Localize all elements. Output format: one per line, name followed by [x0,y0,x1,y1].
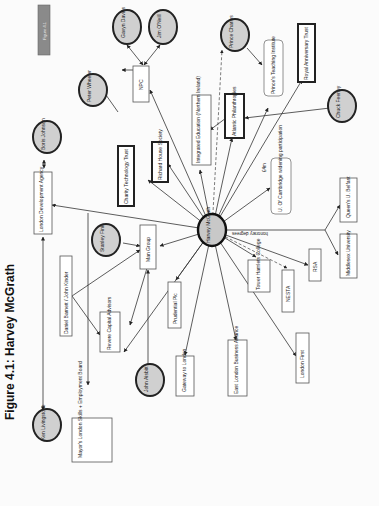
svg-text:Man Group: Man Group [145,237,151,262]
svg-text:£4m: £4m [262,163,267,172]
svg-text:East London Business Alliance: East London Business Alliance [233,325,239,394]
svg-text:Figure 4.1: Figure 4.1 [42,21,47,40]
org-node-man-group[interactable]: Man Group [140,225,156,269]
org-node-npc[interactable]: NPC [133,66,149,102]
svg-text:London First: London First [299,350,305,378]
org-node-prudential[interactable]: Prudential Plc [168,282,181,328]
svg-text:NESTA: NESTA [285,285,291,302]
network-diagram: Figure 4.1: Harvey McGrath Figure 4.1 [0,0,379,506]
svg-text:Royal Anniversary Trust: Royal Anniversary Trust [303,27,309,80]
person-node-prince-charles[interactable]: Prince Charles [221,15,249,51]
svg-text:Chuck Feeney: Chuck Feeney [335,85,341,118]
svg-text:U. Of Cambridge widening parti: U. Of Cambridge widening participation [277,125,283,212]
svg-text:John Aisbitt: John Aisbitt [143,366,149,392]
svg-text:Ken Livingstone: Ken Livingstone [40,404,46,440]
diagram-page: Figure 4.1: Harvey McGrath Figure 4.1 [0,0,379,506]
svg-text:Queen's U. Belfast: Queen's U. Belfast [345,176,351,218]
figure-tag: Figure 4.1 [38,5,50,55]
svg-text:Jim O'Neill: Jim O'Neill [156,14,162,38]
org-node-richard-house[interactable]: Richard House Society [152,129,168,182]
svg-text:RSA: RSA [312,261,318,272]
org-node-atlantic[interactable]: Atlantic Philanthropies [225,86,244,138]
person-node-john[interactable]: John Aisbitt [136,364,164,396]
svg-text:Integrated Education (Northern: Integrated Education (Northern Ireland) [195,76,201,163]
org-node-london-first[interactable]: London First [296,333,309,383]
org-node-elba[interactable]: East London Business Alliance [228,325,247,396]
org-node-lda[interactable]: London Development Agency [34,166,52,234]
person-node-stanley[interactable]: Stanley Fink [92,224,120,256]
person-node-boris[interactable]: Boris Johnson [33,118,61,153]
person-node-peter[interactable]: Peter Wheeler [79,70,107,106]
person-node-gavyn[interactable]: Gavyn Davies [113,6,141,44]
svg-text:Boris Johnson: Boris Johnson [40,118,46,150]
person-node-ken[interactable]: Ken Livingstone [33,404,61,441]
org-node-nesta[interactable]: NESTA [282,270,294,312]
svg-text:NPC: NPC [138,79,144,90]
svg-text:Prince Charles: Prince Charles [228,15,234,48]
svg-text:Middlesex University: Middlesex University [345,230,351,276]
svg-text:Revere Capital Advisors: Revere Capital Advisors [106,296,112,350]
svg-text:Gateway to London: Gateway to London [181,348,187,392]
svg-text:Harvey McGrath: Harvey McGrath [205,206,211,243]
org-node-revere[interactable]: Revere Capital Advisors [100,296,120,352]
svg-text:Gavyn Davies: Gavyn Davies [120,6,126,38]
org-node-cambridge[interactable]: U. Of Cambridge widening participation £… [262,125,291,214]
svg-text:Mayor's London Skills + Employ: Mayor's London Skills + Employment Board [77,361,83,458]
svg-text:Prince's Teaching Institute: Prince's Teaching Institute [270,36,276,94]
org-node-queens[interactable]: Queen's U. Belfast [340,176,357,222]
svg-text:Charity Technology Trust: Charity Technology Trust [123,148,129,204]
org-node-royal-anniversary[interactable]: Royal Anniversary Trust [298,24,315,82]
svg-text:Atlantic Philanthropies: Atlantic Philanthropies [231,86,237,136]
org-node-princes-teaching[interactable]: Prince's Teaching Institute [264,36,283,96]
svg-text:Richard House Society: Richard House Society [157,129,163,180]
svg-text:Prudential Plc: Prudential Plc [172,293,178,324]
edge-label-honorary-degrees: honorary degrees [231,231,268,236]
org-node-daniel-barnett[interactable]: Daniel Barnett / John Kinder [60,256,72,336]
org-node-gateway[interactable]: Gateway to London [176,348,194,396]
svg-text:Peter Wheeler: Peter Wheeler [86,70,92,102]
figure-title: Figure 4.1: Harvey McGrath [3,264,17,420]
org-node-rsa[interactable]: RSA [309,249,321,281]
org-node-tower-hamlets[interactable]: Tower Hamlets College [248,238,270,292]
svg-text:Daniel Barnett / John Kinder: Daniel Barnett / John Kinder [63,271,69,334]
person-node-chuck[interactable]: Chuck Feeney [328,85,356,122]
org-node-mayors-board[interactable]: Mayor's London Skills + Employment Board [72,361,112,462]
org-node-charity-technology[interactable]: Charity Technology Trust [118,146,134,206]
svg-text:London Development Agency: London Development Agency [38,166,44,232]
person-node-jim[interactable]: Jim O'Neill [149,10,177,44]
svg-text:Stanley Fink: Stanley Fink [99,224,105,252]
svg-text:Tower Hamlets College: Tower Hamlets College [255,238,261,290]
org-node-middlesex[interactable]: Middlesex University [340,230,357,278]
center-node-harvey-mcgrath[interactable]: Harvey McGrath [198,206,226,246]
org-node-integrated-education[interactable]: Integrated Education (Northern Ireland) [192,76,211,165]
